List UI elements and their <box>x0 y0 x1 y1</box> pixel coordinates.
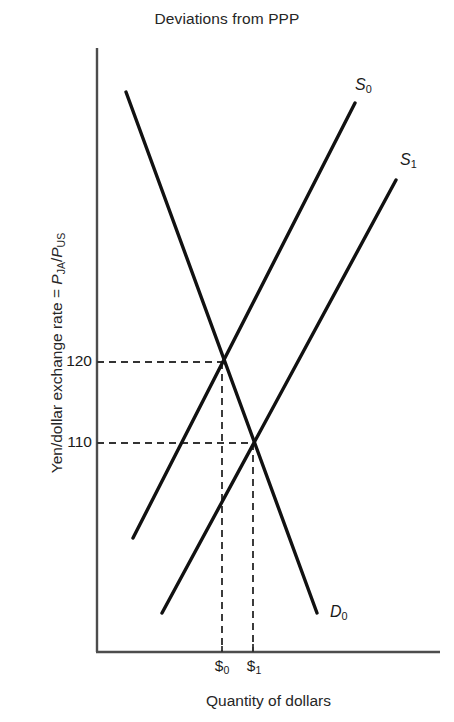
curve-label-s1-variable: S <box>400 151 411 168</box>
x-tick-label-dollar1: $1 <box>234 657 274 675</box>
ppp-deviations-figure: Deviations from PPP Yen/dollar exchange … <box>0 0 454 722</box>
curve-label-s1: S1 <box>400 151 417 169</box>
curve-label-s0-subscript: 0 <box>366 83 372 95</box>
curve-label-s1-subscript: 1 <box>411 158 417 170</box>
y-tick-label-120: 120 <box>44 352 92 370</box>
supply-curve-s1 <box>162 180 396 613</box>
curve-label-d0-subscript: 0 <box>342 610 348 622</box>
y-tick-label-110: 110 <box>44 433 92 451</box>
curve-label-d0: D0 <box>330 603 348 621</box>
x-tick-dollar1-subscript: 1 <box>255 664 261 676</box>
x-tick-dollar0-subscript: 0 <box>223 664 229 676</box>
curve-label-d0-variable: D <box>330 603 342 620</box>
curve-label-s0: S0 <box>355 76 372 94</box>
curve-label-s0-variable: S <box>355 76 366 93</box>
